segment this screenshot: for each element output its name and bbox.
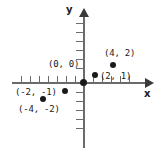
y-axis-tick (76, 32, 83, 33)
y-axis-tick (76, 92, 83, 93)
x-axis-tick (66, 76, 67, 83)
data-point-neg2-neg1 (62, 88, 68, 94)
x-axis-tick (39, 76, 40, 83)
data-point-2-1 (92, 72, 98, 78)
x-axis-tick (30, 76, 31, 83)
y-axis-tick (76, 119, 83, 120)
x-axis-label: x (144, 88, 150, 99)
x-axis-arrow-icon (145, 78, 154, 88)
data-point-label-4-2: (4, 2) (104, 48, 135, 58)
data-point-4-2 (110, 62, 116, 68)
y-axis-tick (76, 110, 83, 111)
data-point-label-neg2-neg1: (-2, -1) (15, 87, 57, 97)
x-axis-tick (48, 76, 49, 83)
y-axis-arrow-icon (79, 8, 89, 17)
y-axis-tick (76, 23, 83, 24)
data-point-neg4-neg2 (40, 96, 46, 102)
data-point-label-origin: (0, 0) (48, 59, 79, 69)
data-point-origin (80, 79, 87, 86)
x-axis-tick (21, 76, 22, 83)
y-axis-tick (76, 101, 83, 102)
y-axis-tick (76, 41, 83, 42)
data-point-label-2-1: (2, 1) (100, 71, 131, 81)
x-axis-tick (75, 76, 76, 83)
y-axis-label: y (66, 4, 73, 15)
data-point-label-neg4-neg2: (-4, -2) (18, 104, 60, 114)
y-axis-tick (76, 50, 83, 51)
coordinate-plane-chart: y x (0, 0) (2, 1) (4, 2) (-2, -1) (-4, -… (0, 0, 163, 154)
x-axis-tick (57, 76, 58, 83)
y-axis-tick (76, 128, 83, 129)
